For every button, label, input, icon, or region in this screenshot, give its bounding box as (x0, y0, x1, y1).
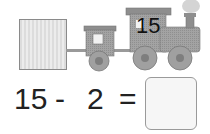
equals-sign: = (119, 84, 137, 114)
operand-1: 15 (14, 84, 47, 114)
answer-box[interactable] (145, 77, 197, 130)
operand-2: 2 (87, 84, 104, 114)
smoke-icon (182, 0, 200, 13)
engine-number: 15 (136, 14, 160, 38)
minus-sign: - (55, 84, 65, 114)
train-car (84, 26, 116, 71)
train-illustration (0, 0, 210, 75)
